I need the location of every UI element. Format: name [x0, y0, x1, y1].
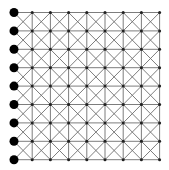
small-node-dot	[158, 121, 161, 124]
small-node-dot	[140, 140, 143, 143]
small-node-dot	[31, 11, 34, 14]
large-node-dot	[10, 100, 19, 109]
small-node-dot	[67, 66, 70, 69]
small-node-dot	[85, 85, 88, 88]
small-node-dot	[140, 121, 143, 124]
small-node-dot	[122, 48, 125, 51]
small-node-dot	[67, 29, 70, 32]
small-node-dot	[122, 66, 125, 69]
large-node-dot	[10, 45, 19, 54]
small-node-dot	[85, 158, 88, 161]
small-node-dot	[31, 103, 34, 106]
small-node-dot	[49, 29, 52, 32]
small-node-dot	[85, 11, 88, 14]
small-node-dot	[158, 66, 161, 69]
lattice-diagram	[0, 0, 169, 170]
small-node-dot	[49, 103, 52, 106]
small-node-dot	[85, 66, 88, 69]
small-node-dot	[140, 29, 143, 32]
large-node-dot	[10, 82, 19, 91]
small-node-dot	[67, 103, 70, 106]
small-node-dot	[104, 121, 107, 124]
small-node-dot	[85, 29, 88, 32]
small-node-dot	[49, 48, 52, 51]
small-node-dot	[104, 66, 107, 69]
small-node-dot	[158, 85, 161, 88]
small-node-dot	[158, 158, 161, 161]
small-node-dot	[140, 66, 143, 69]
small-node-dot	[31, 48, 34, 51]
small-node-dot	[104, 11, 107, 14]
large-node-dot	[10, 8, 19, 17]
small-node-dot	[104, 103, 107, 106]
large-node-dot	[10, 63, 19, 72]
small-node-dot	[49, 121, 52, 124]
lattice-grid	[0, 0, 169, 170]
small-node-dot	[67, 48, 70, 51]
small-node-dot	[31, 158, 34, 161]
small-node-dot	[49, 158, 52, 161]
small-node-dot	[31, 85, 34, 88]
small-node-dot	[122, 85, 125, 88]
small-node-dot	[31, 66, 34, 69]
small-node-dot	[122, 158, 125, 161]
small-node-dot	[31, 29, 34, 32]
small-node-dot	[158, 48, 161, 51]
small-node-dot	[158, 140, 161, 143]
small-node-dot	[49, 140, 52, 143]
small-node-dot	[85, 103, 88, 106]
small-node-dot	[85, 48, 88, 51]
small-node-dot	[67, 158, 70, 161]
large-node-dot	[10, 155, 19, 164]
small-node-dot	[140, 103, 143, 106]
small-node-dot	[140, 11, 143, 14]
small-node-dot	[140, 158, 143, 161]
small-node-dot	[49, 11, 52, 14]
large-node-dot	[10, 137, 19, 146]
small-node-dot	[104, 29, 107, 32]
small-node-dot	[67, 11, 70, 14]
small-node-dot	[122, 11, 125, 14]
small-node-dot	[122, 121, 125, 124]
small-node-dot	[158, 11, 161, 14]
small-node-dot	[67, 85, 70, 88]
small-node-dot	[122, 103, 125, 106]
small-node-dot	[104, 85, 107, 88]
large-node-dot	[10, 26, 19, 35]
small-node-dot	[158, 29, 161, 32]
small-node-dot	[31, 121, 34, 124]
small-node-dot	[31, 140, 34, 143]
small-node-dot	[49, 66, 52, 69]
small-node-dot	[85, 140, 88, 143]
small-node-dot	[104, 48, 107, 51]
large-node-dot	[10, 118, 19, 127]
small-node-dot	[122, 140, 125, 143]
small-node-dot	[158, 103, 161, 106]
small-node-dot	[140, 48, 143, 51]
small-node-dot	[67, 121, 70, 124]
small-node-dot	[104, 158, 107, 161]
small-node-dot	[122, 29, 125, 32]
small-node-dot	[104, 140, 107, 143]
small-node-dot	[67, 140, 70, 143]
small-node-dot	[85, 121, 88, 124]
small-node-dot	[49, 85, 52, 88]
small-node-dot	[140, 85, 143, 88]
